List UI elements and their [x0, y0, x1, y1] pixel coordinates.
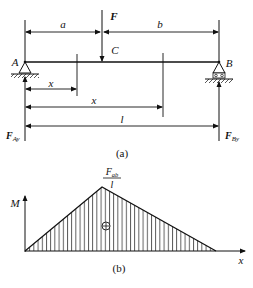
dimension-b-label: b: [157, 18, 163, 30]
caption-a: (a): [116, 147, 129, 160]
dimension-x2-label: x: [91, 94, 97, 106]
support-b-label: B: [226, 57, 233, 69]
peak-denominator: l: [111, 179, 114, 190]
reaction-a-label: FAy: [5, 130, 21, 143]
figure-a: a b F C A B: [5, 10, 240, 160]
moment-hatching: [25, 185, 217, 252]
force-label: F: [109, 10, 118, 22]
support-a-label: A: [11, 56, 19, 68]
reaction-b-label: FBy: [224, 130, 240, 143]
beam-diagram: a b F C A B: [0, 0, 253, 288]
point-c-label: C: [111, 44, 119, 56]
dimension-a-label: a: [60, 18, 66, 30]
peak-numerator: Fab: [105, 166, 119, 178]
dimension-l-label: l: [120, 113, 123, 125]
x-axis-label: x: [238, 254, 244, 266]
figure-b: M x Fab l (b): [9, 166, 245, 275]
m-axis-label: M: [9, 197, 20, 209]
dimension-x1-label: x: [48, 77, 54, 89]
caption-b: (b): [113, 262, 126, 275]
